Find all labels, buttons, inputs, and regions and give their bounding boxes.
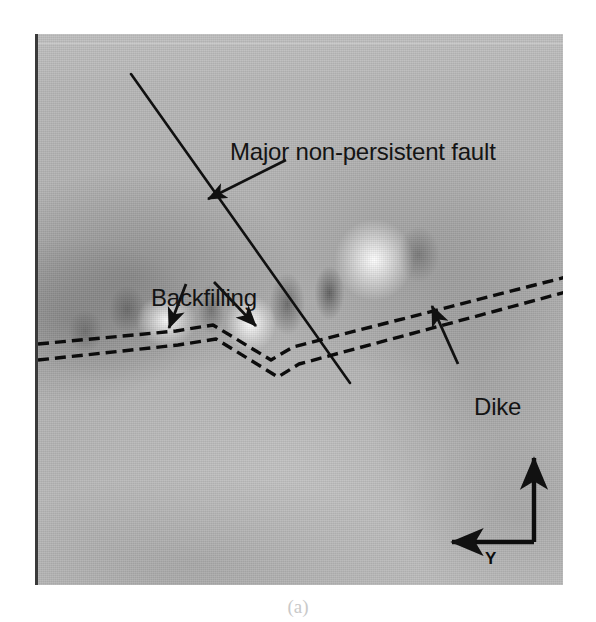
- figure-caption: (a): [0, 596, 596, 618]
- model-image-panel: Major non-persistent fault Backfilling D…: [35, 34, 563, 585]
- backfilling-label: Backfilling: [151, 284, 257, 312]
- axis-label-y: Y: [485, 549, 496, 569]
- figure-container: Major non-persistent fault Backfilling D…: [0, 0, 596, 622]
- dike-line-lower: [38, 292, 563, 377]
- dike-label: Dike: [474, 393, 521, 421]
- fault-line: [131, 74, 350, 383]
- dike-line-upper: [38, 277, 563, 360]
- fault-label: Major non-persistent fault: [230, 138, 496, 166]
- annotation-overlay: [38, 34, 563, 585]
- dike-leader-arrow: [432, 306, 458, 364]
